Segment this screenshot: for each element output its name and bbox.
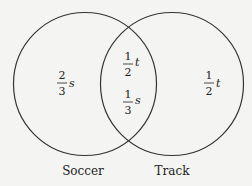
variable: t (135, 56, 140, 69)
numerator: 1 (125, 88, 132, 101)
denominator: 2 (206, 85, 213, 98)
numerator: 2 (59, 69, 66, 82)
variable: t (216, 77, 221, 90)
soccer-label: Soccer (62, 164, 104, 178)
denominator: 2 (125, 66, 132, 79)
track-label: Track (155, 164, 191, 178)
intersection-bottom-fraction: 1 3 s (123, 88, 141, 117)
numerator: 1 (206, 69, 213, 82)
variable: s (135, 94, 141, 107)
venn-diagram: 2 3 s 1 2 t 1 3 s 1 2 t Soccer Track (0, 0, 252, 186)
soccer-only-fraction: 2 3 s (57, 69, 75, 98)
track-circle (101, 13, 244, 156)
soccer-circle (14, 13, 157, 156)
variable: s (69, 77, 75, 90)
denominator: 3 (125, 104, 132, 117)
denominator: 3 (59, 85, 66, 98)
intersection-top-fraction: 1 2 t (123, 50, 140, 79)
track-only-fraction: 1 2 t (204, 69, 221, 98)
numerator: 1 (125, 50, 132, 63)
